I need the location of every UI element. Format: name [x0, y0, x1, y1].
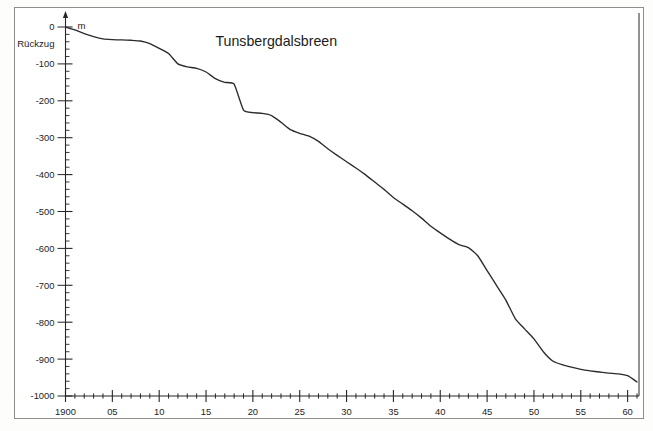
retreat-curve-chart: 0-100-200-300-400-500-600-700-800-900-10… — [0, 0, 653, 431]
y-axis-tick-label: -100 — [36, 58, 55, 69]
x-axis-tick-label: 20 — [248, 406, 258, 417]
x-axis-tick-label: 50 — [529, 406, 539, 417]
y-axis-tick-label: -400 — [36, 169, 55, 180]
retreat-annotation-label: Rückzug — [17, 38, 54, 49]
x-axis-tick-label: 25 — [295, 406, 305, 417]
y-axis-arrow-icon — [63, 11, 68, 18]
x-axis-tick-label: 40 — [435, 406, 445, 417]
x-axis-tick-label: 1900 — [55, 406, 76, 417]
x-axis-tick-label: 10 — [154, 406, 164, 417]
x-axis-tick-label: 30 — [341, 406, 351, 417]
y-axis-unit-label: m — [78, 20, 86, 31]
y-axis-tick-label: -800 — [36, 317, 55, 328]
x-axis-tick-label: 35 — [388, 406, 398, 417]
y-axis-tick-label: 0 — [49, 21, 54, 32]
y-axis-tick-label: -300 — [36, 132, 55, 143]
retreat-data-line — [66, 27, 638, 382]
x-axis-tick-label: 60 — [622, 406, 632, 417]
y-axis-tick-label: -200 — [36, 95, 55, 106]
figure-canvas: 0-100-200-300-400-500-600-700-800-900-10… — [0, 0, 653, 431]
y-axis-tick-label: -900 — [36, 354, 55, 365]
y-axis-tick-label: -1000 — [31, 390, 55, 401]
chart-title: Tunsbergdalsbreen — [215, 33, 337, 49]
x-axis-tick-label: 55 — [576, 406, 586, 417]
y-axis-tick-label: -600 — [36, 243, 55, 254]
y-axis-tick-label: -700 — [36, 280, 55, 291]
x-axis-tick-label: 15 — [201, 406, 211, 417]
x-axis-tick-label: 05 — [107, 406, 117, 417]
y-axis-tick-label: -500 — [36, 206, 55, 217]
x-axis-tick-label: 45 — [482, 406, 492, 417]
